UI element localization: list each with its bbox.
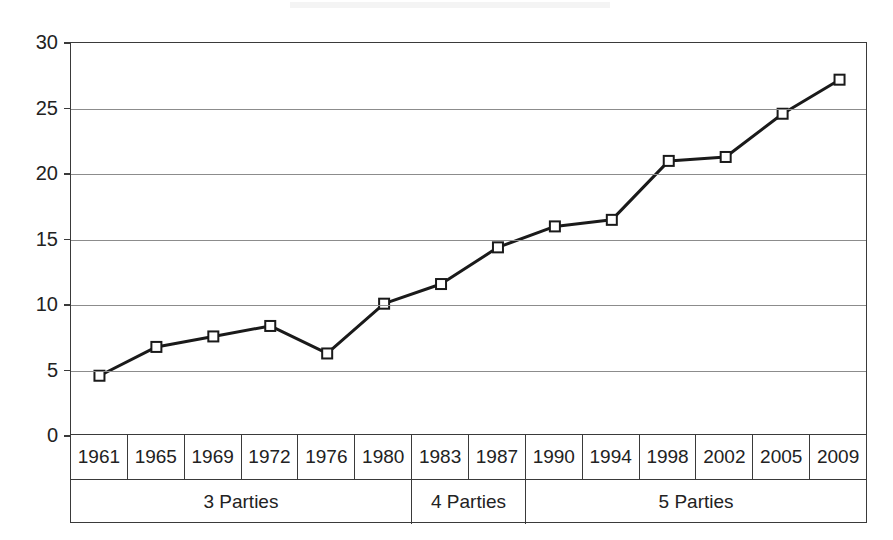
y-axis-tick-mark: [64, 239, 71, 241]
y-axis-tick-label: 15: [36, 229, 58, 249]
data-point-marker[interactable]: [379, 299, 389, 309]
data-point-marker[interactable]: [265, 321, 275, 331]
gridline: [71, 240, 866, 241]
y-axis-tick-label: 0: [47, 425, 58, 445]
y-axis-tick-mark: [64, 108, 71, 110]
y-axis-tick-mark: [64, 370, 71, 372]
y-axis-tick-label: 10: [36, 294, 58, 314]
data-point-marker[interactable]: [151, 342, 161, 352]
x-axis-tick-label: 2005: [752, 435, 809, 479]
gridline: [71, 109, 866, 110]
data-point-marker[interactable]: [835, 75, 845, 85]
data-point-marker[interactable]: [94, 371, 104, 381]
gridline: [71, 371, 866, 372]
y-axis-tick-label: 30: [36, 32, 58, 52]
y-axis-tick-label: 25: [36, 98, 58, 118]
x-axis-tick-label: 1998: [639, 435, 696, 479]
gridline: [71, 305, 866, 306]
x-axis-tick-label: 1980: [354, 435, 411, 479]
y-axis-tick-label: 20: [36, 163, 58, 183]
x-axis-tick-label: 1965: [127, 435, 184, 479]
data-point-marker[interactable]: [607, 215, 617, 225]
data-point-marker[interactable]: [550, 221, 560, 231]
x-axis-tick-label: 2009: [809, 435, 866, 479]
x-axis-group-label: 4 Parties: [411, 480, 525, 524]
plot-area: [70, 42, 867, 435]
x-axis-tick-label: 2002: [695, 435, 752, 479]
x-group-label-row: 3 Parties4 Parties5 Parties: [71, 479, 866, 524]
x-tick-label-row: 1961196519691972197619801983198719901994…: [71, 435, 866, 479]
x-axis-tick-label: 1972: [241, 435, 298, 479]
x-axis-table: 1961196519691972197619801983198719901994…: [70, 435, 867, 523]
scan-artifact: [290, 2, 610, 8]
y-axis-tick-label: 5: [47, 360, 58, 380]
x-axis-tick-label: 1961: [71, 435, 127, 479]
x-axis-tick-label: 1983: [411, 435, 468, 479]
data-point-marker[interactable]: [322, 348, 332, 358]
x-axis-tick-label: 1994: [582, 435, 639, 479]
data-point-marker[interactable]: [721, 152, 731, 162]
data-point-marker[interactable]: [664, 156, 674, 166]
x-axis-tick-label: 1987: [468, 435, 525, 479]
data-point-marker[interactable]: [208, 331, 218, 341]
x-axis-group-label: 5 Parties: [525, 480, 866, 524]
gridline: [71, 174, 866, 175]
y-axis-tick-mark: [64, 42, 71, 44]
y-axis-tick-mark: [64, 173, 71, 175]
x-axis-tick-label: 1990: [525, 435, 582, 479]
data-point-marker[interactable]: [778, 109, 788, 119]
data-point-marker[interactable]: [436, 279, 446, 289]
x-axis-group-label: 3 Parties: [71, 480, 411, 524]
y-axis-tick-mark: [64, 304, 71, 306]
data-point-marker[interactable]: [493, 242, 503, 252]
chart-container: 051015202530 196119651969197219761980198…: [0, 0, 893, 540]
x-axis-tick-label: 1969: [184, 435, 241, 479]
y-axis-label-group: 051015202530: [0, 0, 58, 540]
x-axis-tick-label: 1976: [297, 435, 354, 479]
